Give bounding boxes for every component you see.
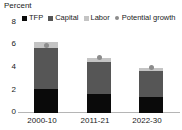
square-swatch-lightgray-icon bbox=[84, 16, 89, 21]
bar-segment-capital bbox=[87, 62, 111, 94]
legend-item-potential-growth: Potential growth bbox=[115, 14, 176, 22]
potential-growth-decomposition-chart: Percent TFP Capital Labor Potential grow… bbox=[0, 0, 182, 130]
x-tick-label-2000-10: 2000-10 bbox=[14, 116, 70, 125]
chart-legend: TFP Capital Labor Potential growth bbox=[22, 14, 176, 22]
y-tick-label-6: 6 bbox=[0, 40, 16, 48]
bar-segment-tfp bbox=[139, 97, 163, 113]
y-axis-title: Percent bbox=[4, 1, 32, 10]
potential-growth-marker bbox=[44, 43, 49, 48]
bar-group-2022-30 bbox=[139, 68, 163, 113]
plot-area bbox=[20, 22, 180, 113]
y-tick-label-4: 4 bbox=[0, 63, 16, 71]
square-swatch-darkgray-icon bbox=[48, 16, 53, 21]
x-tick-label-2022-30: 2022-30 bbox=[119, 116, 175, 125]
legend-label-potential-growth: Potential growth bbox=[122, 14, 176, 22]
legend-item-capital: Capital bbox=[48, 14, 78, 22]
legend-label-labor: Labor bbox=[91, 14, 110, 22]
square-swatch-black-icon bbox=[22, 16, 27, 21]
x-tick-label-2011-21: 2011-21 bbox=[67, 116, 123, 125]
bar-group-2011-21 bbox=[87, 58, 111, 113]
legend-item-labor: Labor bbox=[84, 14, 110, 22]
y-tick-label-0: 0 bbox=[0, 108, 16, 116]
potential-growth-marker bbox=[97, 55, 102, 60]
bar-segment-capital bbox=[139, 71, 163, 97]
legend-label-capital: Capital bbox=[55, 14, 78, 22]
bar-segment-capital bbox=[34, 48, 58, 89]
bar-segment-tfp bbox=[87, 94, 111, 113]
y-tick-label-8: 8 bbox=[0, 18, 16, 26]
bar-segment-tfp bbox=[34, 89, 58, 113]
bar-group-2000-10 bbox=[34, 42, 58, 113]
dot-marker-gray-icon bbox=[115, 16, 120, 21]
legend-label-tfp: TFP bbox=[29, 14, 43, 22]
potential-growth-marker bbox=[149, 65, 154, 70]
y-tick-label-2: 2 bbox=[0, 86, 16, 94]
legend-item-tfp: TFP bbox=[22, 14, 43, 22]
